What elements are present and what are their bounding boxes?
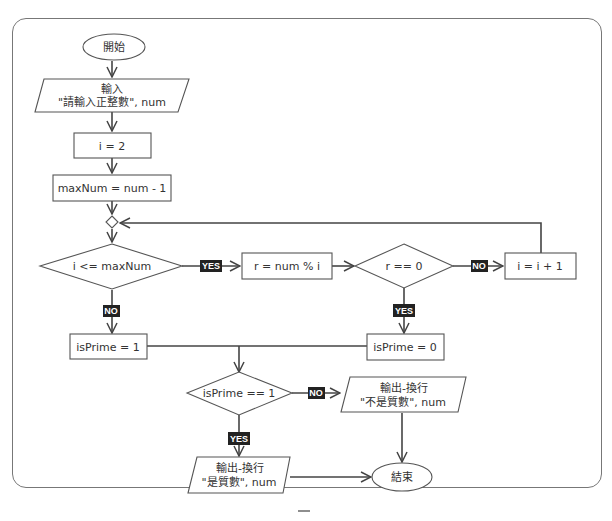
- start-label: 開始: [103, 40, 125, 54]
- output-prime-label-1: 輸出-換行: [216, 461, 264, 475]
- output-not-prime-label-1: 輸出-換行: [380, 381, 428, 395]
- output-not-prime-label-2: "不是質數", num: [360, 395, 446, 409]
- set-prime-1-label: isPrime = 1: [76, 341, 140, 354]
- cond-r-label: r == 0: [386, 260, 423, 273]
- no-tag: NO: [104, 306, 118, 316]
- assign-i-label: i = 2: [99, 140, 125, 153]
- cond-loop-label: i <= maxNum: [73, 260, 151, 273]
- flowchart-canvas: 開始 輸入 "請輸入正整數", num i = 2 maxNum = num -…: [0, 0, 612, 521]
- input-label-1: 輸入: [101, 82, 123, 96]
- cond-prime-label: isPrime == 1: [203, 387, 276, 400]
- increment-label: i = i + 1: [517, 260, 563, 273]
- calc-r-label: r = num % i: [254, 260, 320, 273]
- output-prime-label-2: "是質數", num: [202, 475, 277, 489]
- yes-tag: YES: [395, 306, 413, 316]
- assign-maxnum-label: maxNum = num - 1: [58, 182, 167, 195]
- set-prime-0-label: isPrime = 0: [373, 341, 437, 354]
- end-label: 結束: [391, 470, 413, 484]
- yes-tag: YES: [202, 261, 220, 271]
- no-tag: NO: [472, 261, 486, 271]
- input-label-2: "請輸入正整數", num: [58, 95, 166, 109]
- loop-junction: [106, 216, 118, 228]
- no-tag: NO: [309, 388, 323, 398]
- yes-tag: YES: [230, 434, 248, 444]
